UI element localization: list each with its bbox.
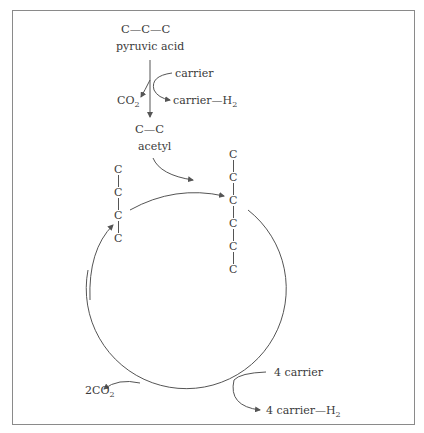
acetyl-formula: C—C — [135, 124, 164, 136]
cycle-top-arc — [130, 193, 224, 210]
four-carbon-chain: C C C C — [114, 164, 122, 244]
carrier-reduction-arrow — [153, 73, 172, 100]
diagram-lines — [0, 0, 424, 433]
cycle-carrier-in-label: 4 carrier — [274, 367, 323, 378]
cycle-co2-label: 2CO2 — [85, 385, 115, 399]
cycle-carrier-arrow — [233, 372, 266, 410]
carrier-in-label: carrier — [175, 68, 214, 79]
pyruvic-label: pyruvic acid — [116, 41, 184, 52]
co2-label: CO2 — [117, 95, 140, 109]
co2-release-arrow — [141, 80, 150, 97]
cycle-left-arc — [90, 225, 113, 300]
pyruvic-formula: C—C—C — [121, 24, 170, 36]
acetyl-entry-arrow — [153, 158, 193, 180]
cycle-carrier-h2-label: 4 carrier—H2 — [266, 405, 341, 419]
six-carbon-chain: C C C C C C — [229, 149, 237, 275]
carrier-h2-label: carrier—H2 — [173, 95, 237, 109]
acetyl-label: acetyl — [138, 141, 171, 152]
